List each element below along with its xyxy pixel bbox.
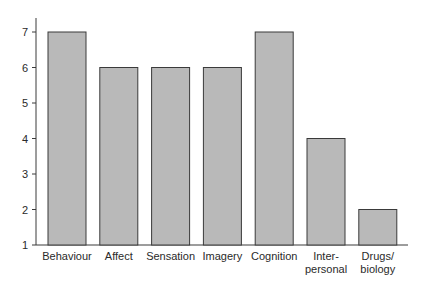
- x-category-label: Imagery: [203, 250, 243, 262]
- x-category-label: Drugs/biology: [360, 250, 395, 275]
- bar-inter-personal: [307, 139, 345, 246]
- bar-drugs-biology: [359, 210, 397, 246]
- bar-imagery: [203, 68, 241, 246]
- x-category-label: Sensation: [146, 250, 195, 262]
- bar-behaviour: [48, 32, 86, 245]
- y-tick-label: 6: [22, 62, 28, 74]
- bar-affect: [100, 68, 138, 246]
- x-category-label: Affect: [105, 250, 133, 262]
- x-category-label: Behaviour: [42, 250, 92, 262]
- x-category-label: Cognition: [251, 250, 297, 262]
- y-tick-label: 7: [22, 26, 28, 38]
- y-tick-label: 3: [22, 168, 28, 180]
- bars: [48, 32, 397, 245]
- y-tick-label: 5: [22, 97, 28, 109]
- modality-profile-bar-chart: 1234567 BehaviourAffectSensationImageryC…: [0, 0, 424, 296]
- x-axis-labels: BehaviourAffectSensationImageryCognition…: [42, 250, 396, 275]
- x-category-label: Inter-personal: [305, 250, 347, 275]
- bar-sensation: [152, 68, 190, 246]
- y-tick-label: 4: [22, 133, 28, 145]
- bar-cognition: [255, 32, 293, 245]
- y-tick-label: 2: [22, 204, 28, 216]
- y-tick-label: 1: [22, 239, 28, 251]
